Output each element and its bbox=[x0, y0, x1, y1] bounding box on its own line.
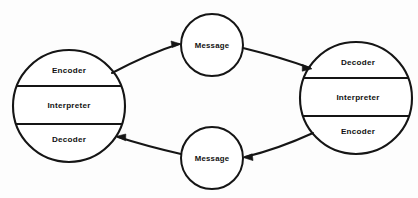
communication-cycle-diagram: Encoder Interpreter Decoder Decoder Inte… bbox=[0, 0, 418, 198]
arrow-head-1 bbox=[171, 41, 181, 48]
right-segment-label-decoder: Decoder bbox=[341, 58, 376, 67]
bottom-message-node: Message bbox=[181, 127, 243, 189]
flow-arrow-path-3 bbox=[245, 133, 313, 157]
left-segment-label-interpreter: Interpreter bbox=[47, 101, 91, 110]
flow-arrow-path-1 bbox=[112, 44, 179, 73]
diagram-canvas: Encoder Interpreter Decoder Decoder Inte… bbox=[0, 0, 418, 198]
left-communicator-node: Encoder Interpreter Decoder bbox=[13, 50, 125, 162]
flow-top-message-to-right bbox=[243, 48, 312, 71]
top-message-label: Message bbox=[195, 41, 230, 50]
flow-arrow-path-4 bbox=[118, 137, 181, 154]
bottom-message-label: Message bbox=[195, 154, 230, 163]
flow-left-to-top-message bbox=[112, 41, 181, 73]
flow-arrow-path-2 bbox=[243, 48, 310, 68]
left-segment-label-encoder: Encoder bbox=[52, 66, 87, 75]
right-segment-label-interpreter: Interpreter bbox=[336, 93, 380, 102]
flow-right-to-bottom-message bbox=[243, 133, 313, 161]
right-communicator-node: Decoder Interpreter Encoder bbox=[300, 42, 412, 154]
right-segment-label-encoder: Encoder bbox=[341, 127, 376, 136]
top-message-node: Message bbox=[181, 14, 243, 76]
flow-bottom-message-to-left bbox=[116, 134, 181, 154]
left-segment-label-decoder: Decoder bbox=[52, 135, 87, 144]
arrow-head-3 bbox=[243, 154, 253, 161]
